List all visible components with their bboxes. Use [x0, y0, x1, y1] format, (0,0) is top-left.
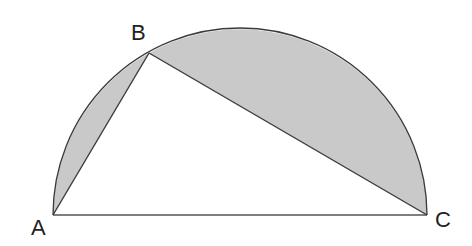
chord-ab	[53, 53, 149, 215]
shaded-segment-bc	[149, 29, 427, 215]
point-label-b: B	[131, 22, 146, 44]
geometry-diagram: A B C	[0, 0, 472, 246]
point-label-c: C	[435, 209, 451, 231]
diagram-svg	[0, 0, 472, 246]
point-label-a: A	[31, 217, 46, 239]
